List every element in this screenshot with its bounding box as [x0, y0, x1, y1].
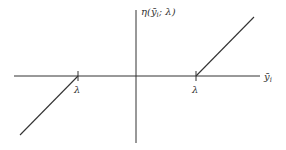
negative-branch-line	[20, 76, 78, 135]
soft-threshold-diagram: η(ȳi; λ) ȳi λ λ	[0, 0, 286, 150]
right-lambda-label: λ	[191, 84, 198, 95]
positive-branch-line	[196, 17, 254, 76]
left-lambda-label: λ	[73, 84, 80, 95]
y-axis-label: η(ȳi; λ)	[141, 6, 176, 19]
x-axis-label: ȳi	[263, 71, 272, 84]
